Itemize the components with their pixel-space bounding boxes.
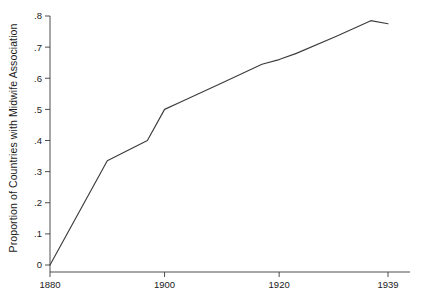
y-axis-ticks: 0.1.2.3.4.5.6.7.8 [34,10,50,270]
x-tick-label: 1880 [39,279,60,290]
y-tick-label: .5 [34,104,42,115]
y-tick-label: .7 [34,42,42,53]
x-tick-label: 1900 [154,279,175,290]
y-tick-label: .4 [34,135,42,146]
y-tick-label: .8 [34,10,42,21]
data-series-line [50,21,388,265]
x-axis-ticks: 1880190019201939 [39,272,398,290]
y-tick-label: .6 [34,73,42,84]
y-tick-label: 0 [37,259,42,270]
y-tick-label: .1 [34,228,42,239]
chart-figure: Proportion of Countries with Midwife Ass… [0,0,421,295]
x-tick-label: 1920 [269,279,290,290]
x-tick-label: 1939 [377,279,398,290]
chart-plot-area: 0.1.2.3.4.5.6.7.8 1880190019201939 [0,0,421,295]
y-tick-label: .2 [34,197,42,208]
y-tick-label: .3 [34,166,42,177]
